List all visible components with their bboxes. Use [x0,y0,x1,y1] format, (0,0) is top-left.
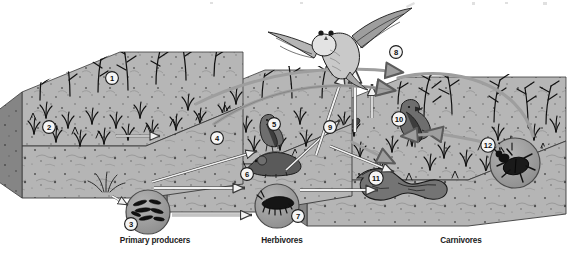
callout-number: 11 [372,174,381,183]
callout-4: 4 [211,132,224,145]
callout-number: 6 [245,170,249,179]
callout-number: 10 [395,115,403,124]
callout-7: 7 [292,210,305,223]
caption-primary-producers: Primary producers [120,236,190,245]
caption-carnivores: Carnivores [440,236,481,245]
callout-2: 2 [43,121,56,134]
callout-11: 11 [369,171,383,185]
callout-5: 5 [268,118,281,131]
food-web-figure: 123456789101112 Primary producers Herbiv… [0,0,574,256]
centipede-inset [255,184,299,228]
callout-9: 9 [324,121,337,134]
caption-herbivores: Herbivores [261,236,302,245]
callout-number: 7 [296,212,300,221]
callout-number: 9 [328,123,332,132]
callout-number: 8 [394,48,398,57]
callout-3: 3 [125,218,138,231]
page-edge-artifact [0,0,574,12]
callout-number: 3 [129,220,133,229]
callout-10: 10 [392,112,406,126]
callout-6: 6 [241,168,254,181]
callout-8: 8 [390,46,403,59]
callout-1: 1 [106,72,119,85]
callout-number: 12 [484,141,492,150]
callout-number: 2 [47,123,51,132]
food-web-illustration: 123456789101112 [0,0,574,256]
callout-12: 12 [481,138,495,152]
